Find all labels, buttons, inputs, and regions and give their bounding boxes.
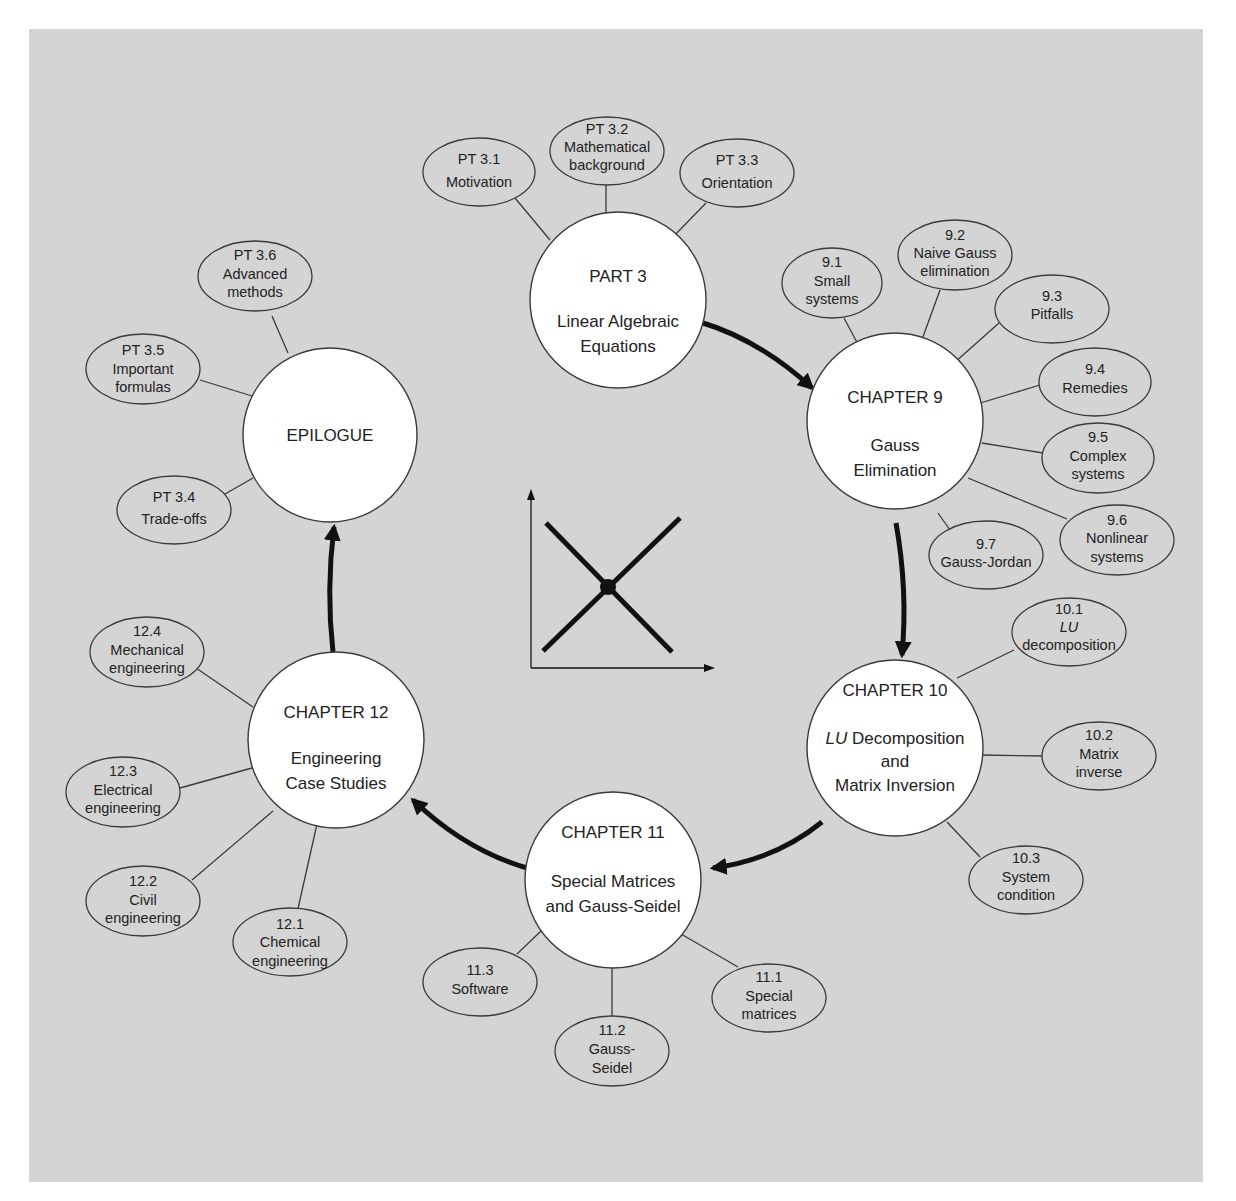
leaf-9-4[interactable]: 9.4 Remedies [1039, 348, 1151, 416]
hub-ch11-subtitle-2: and Gauss-Seidel [545, 897, 680, 916]
leaf-label: Civil [129, 892, 156, 908]
arrow-ch11-to-ch12 [413, 800, 527, 868]
hub-ch9-subtitle-2: Elimination [853, 461, 936, 480]
leaf-label: background [569, 157, 645, 173]
leaf-pt3-5[interactable]: PT 3.5 Important formulas [86, 334, 200, 404]
leaf-label: systems [1071, 466, 1124, 482]
leaf-number: PT 3.5 [122, 342, 164, 358]
leaf-number: 10.1 [1055, 601, 1083, 617]
leaf-9-3[interactable]: 9.3 Pitfalls [995, 275, 1109, 343]
leaf-number: 9.4 [1085, 361, 1105, 377]
leaf-number: 12.4 [133, 623, 161, 639]
leaf-label: Chemical [260, 934, 320, 950]
leaf-label: Orientation [702, 175, 773, 191]
leaf-number: 12.1 [276, 916, 304, 932]
leaf-pt3-6[interactable]: PT 3.6 Advanced methods [198, 241, 312, 311]
arrow-ch10-to-ch11 [713, 822, 822, 868]
leaf-10-1[interactable]: 10.1 LU decomposition [1012, 598, 1126, 666]
leaf-label: Small [814, 273, 850, 289]
arrow-part3-to-ch9 [700, 322, 812, 388]
leaf-label: Electrical [94, 782, 153, 798]
leaf-number: PT 3.2 [586, 121, 628, 137]
leaf-number: 10.3 [1012, 850, 1040, 866]
leaf-number: 9.5 [1088, 429, 1108, 445]
hub-ch9-subtitle-1: Gauss [870, 436, 919, 455]
leaf-label: Advanced [223, 266, 288, 282]
leaf-label: systems [1090, 549, 1143, 565]
leaf-number: PT 3.3 [716, 152, 758, 168]
leaf-number: PT 3.1 [458, 151, 500, 167]
leaf-label: decomposition [1022, 637, 1116, 653]
hub-part3-subtitle-2: Equations [580, 337, 656, 356]
intersecting-lines-graph-icon [527, 489, 715, 672]
hub-ch12-subtitle-1: Engineering [291, 749, 382, 768]
arrow-ch12-to-epilogue [330, 527, 334, 652]
hub-ch12-title: CHAPTER 12 [284, 703, 389, 722]
leaf-9-1[interactable]: 9.1 Small systems [782, 248, 882, 318]
leaf-12-3[interactable]: 12.3 Electrical engineering [66, 757, 180, 827]
leaf-label: engineering [105, 910, 181, 926]
leaf-label: Trade-offs [141, 511, 206, 527]
leaf-label: matrices [742, 1006, 797, 1022]
leaf-number: 12.2 [129, 873, 157, 889]
leaf-label: Complex [1069, 448, 1127, 464]
leaf-pt3-3[interactable]: PT 3.3 Orientation [680, 139, 794, 207]
hub-ch11-subtitle-1: Special Matrices [551, 872, 676, 891]
leaf-label: Seidel [592, 1060, 632, 1076]
leaf-number: PT 3.6 [234, 247, 276, 263]
leaf-number: 9.1 [822, 254, 842, 270]
leaf-9-6[interactable]: 9.6 Nonlinear systems [1060, 505, 1174, 575]
hub-part3[interactable]: PART 3 Linear Algebraic Equations [530, 212, 706, 388]
leaf-12-2[interactable]: 12.2 Civil engineering [86, 866, 200, 936]
part3-roadmap-diagram: PART 3 Linear Algebraic Equations CHAPTE… [0, 0, 1236, 1201]
hub-epilogue-title: EPILOGUE [287, 426, 374, 445]
arrow-ch9-to-ch10 [896, 523, 904, 655]
leaf-label: Mechanical [110, 642, 183, 658]
leaf-11-2[interactable]: 11.2 Gauss- Seidel [555, 1016, 669, 1086]
leaf-10-3[interactable]: 10.3 System condition [969, 846, 1083, 914]
hub-ch10[interactable]: CHAPTER 10 LU Decomposition and Matrix I… [807, 660, 983, 836]
hub-part3-title: PART 3 [589, 267, 647, 286]
hub-epilogue[interactable]: EPILOGUE [243, 348, 417, 522]
leaf-label: LU [1060, 619, 1079, 635]
hub-ch11[interactable]: CHAPTER 11 Special Matrices and Gauss-Se… [525, 792, 701, 968]
hub-ch11-title: CHAPTER 11 [561, 823, 665, 842]
leaf-number: 11.2 [598, 1022, 625, 1038]
leaf-label: engineering [109, 660, 185, 676]
leaf-pt3-4[interactable]: PT 3.4 Trade-offs [117, 476, 231, 544]
leaf-9-7[interactable]: 9.7 Gauss-Jordan [929, 521, 1043, 589]
hub-ch12[interactable]: CHAPTER 12 Engineering Case Studies [248, 652, 424, 828]
leaf-label: elimination [920, 263, 989, 279]
leaf-9-5[interactable]: 9.5 Complex systems [1042, 423, 1154, 493]
hub-ch9[interactable]: CHAPTER 9 Gauss Elimination [807, 333, 983, 509]
leaf-pt3-1[interactable]: PT 3.1 Motivation [423, 138, 535, 206]
leaf-label: Nonlinear [1086, 530, 1148, 546]
leaf-label: Motivation [446, 174, 512, 190]
leaf-label: Gauss- [589, 1041, 636, 1057]
hub-ch10-title: CHAPTER 10 [843, 681, 948, 700]
leaf-12-4[interactable]: 12.4 Mechanical engineering [90, 617, 204, 687]
leaf-label: Pitfalls [1031, 306, 1074, 322]
hub-ch10-subtitle-3: Matrix Inversion [835, 776, 955, 795]
leaf-9-2[interactable]: 9.2 Naive Gauss elimination [898, 220, 1012, 290]
hub-ch10-subtitle-1: LU Decomposition [826, 729, 965, 748]
leaf-11-1[interactable]: 11.1 Special matrices [712, 964, 826, 1032]
leaf-pt3-2[interactable]: PT 3.2 Mathematical background [550, 117, 664, 185]
leaf-label: engineering [252, 953, 328, 969]
leaf-label: Software [451, 981, 508, 997]
leaf-number: 9.3 [1042, 288, 1062, 304]
leaf-label: Naive Gauss [913, 245, 996, 261]
hub-part3-subtitle-1: Linear Algebraic [557, 312, 679, 331]
leaf-12-1[interactable]: 12.1 Chemical engineering [233, 908, 347, 976]
leaf-label: formulas [115, 379, 171, 395]
leaf-11-3[interactable]: 11.3 Software [423, 948, 537, 1016]
leaf-label: Special [745, 988, 793, 1004]
hub-ch10-subtitle-2: and [881, 752, 909, 771]
leaf-10-2[interactable]: 10.2 Matrix inverse [1042, 722, 1156, 790]
leaf-label: methods [227, 284, 283, 300]
leaf-number: 11.1 [755, 969, 782, 985]
leaf-number: 11.3 [466, 962, 493, 978]
leaf-label: condition [997, 887, 1055, 903]
leaf-label: Gauss-Jordan [940, 554, 1031, 570]
leaf-label: Matrix [1079, 746, 1119, 762]
